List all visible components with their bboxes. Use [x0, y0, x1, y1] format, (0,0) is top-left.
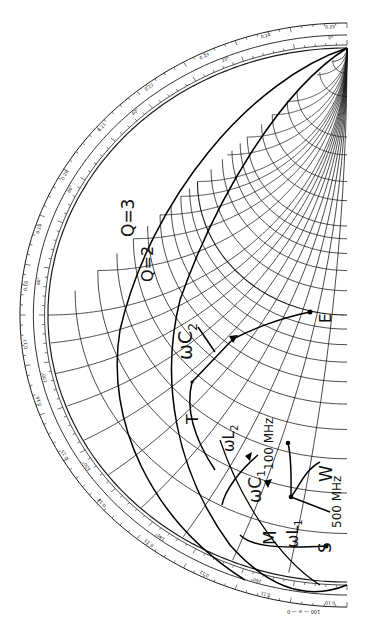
svg-text:120°: 120°: [81, 460, 91, 472]
omega-c2-sub: 2: [186, 323, 200, 331]
svg-text:0.21: 0.21: [97, 122, 107, 133]
omega-l1-text: ωL: [283, 526, 302, 548]
svg-text:0.14: 0.14: [97, 497, 107, 508]
path-100: [288, 443, 291, 497]
point-e-dot: [308, 310, 313, 315]
svg-text:0.15: 0.15: [60, 449, 69, 460]
mhz500-label: 500 MHz: [330, 476, 344, 528]
mhz100-label: 100 MHz: [262, 418, 276, 470]
svg-text:0.17: 0.17: [23, 339, 29, 350]
svg-text:60°: 60°: [66, 184, 74, 193]
svg-text:80°: 80°: [36, 277, 42, 286]
omega-l1-label: ωL1: [283, 519, 304, 548]
smith-grid: [48, 48, 347, 573]
e-label: E: [317, 314, 335, 323]
svg-text:0.23: 0.23: [199, 52, 210, 61]
q3-label: Q=3: [118, 199, 138, 237]
path-500: [291, 497, 330, 512]
svg-text:0.18: 0.18: [23, 280, 29, 291]
omega-l2-text: ωL: [220, 431, 238, 452]
svg-text:0.13: 0.13: [143, 538, 154, 548]
svg-text:0.24: 0.24: [260, 32, 271, 39]
point-100mhz-dot: [286, 441, 291, 446]
svg-text:160°: 160°: [250, 576, 262, 584]
point-t-dot: [190, 380, 193, 383]
omega-c1-text: ωC: [245, 477, 265, 503]
svg-text:100°: 100°: [41, 372, 48, 384]
svg-text:0°: 0°: [328, 35, 333, 40]
smith-chart: 0.250.240.230.220.210.200.190.180.170.16…: [0, 0, 371, 624]
omega-c2-label: ωC2: [174, 323, 200, 360]
svg-text:0.11: 0.11: [260, 590, 271, 597]
svg-text:0.12: 0.12: [199, 569, 210, 578]
omega-l2-label: ωL2: [220, 425, 240, 452]
arrow-triangle-3: [245, 452, 252, 461]
svg-text:140°: 140°: [154, 531, 166, 542]
omega-l2-sub: 2: [229, 425, 240, 431]
bottom-scale-label: 100 — ∞ — 0: [287, 609, 320, 615]
omega-c1-sub: 1: [255, 470, 268, 477]
path-e-t: [192, 312, 310, 382]
svg-text:0.10: 0.10: [325, 600, 335, 606]
omega-l1-sub: 1: [293, 519, 304, 525]
s-label: S: [315, 542, 335, 553]
t-label: T: [183, 414, 202, 424]
omega-c2-text: ωC: [174, 331, 196, 360]
svg-text:20°: 20°: [221, 56, 230, 64]
q2-label: Q=2: [138, 246, 157, 282]
point-w-dot: [289, 495, 294, 500]
svg-text:0.22: 0.22: [144, 82, 155, 92]
m-label: M: [260, 530, 280, 545]
q3-curve: [117, 48, 347, 580]
matching-path: [117, 48, 347, 592]
omega-c1-label: ωC1: [245, 470, 268, 503]
svg-text:0.25: 0.25: [325, 24, 335, 30]
svg-text:40°: 40°: [131, 107, 140, 116]
